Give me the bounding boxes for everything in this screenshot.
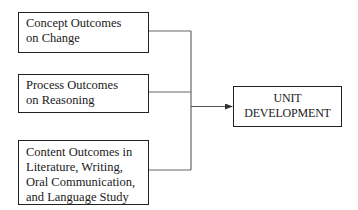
concept-outcomes-box: Concept Outcomes on Change <box>18 12 149 53</box>
box-text-line: and Language Study <box>26 190 142 205</box>
box-text-line: on Change <box>26 31 142 46</box>
unit-development-box: UNIT DEVELOPMENT <box>233 86 342 127</box>
box-text-line: UNIT <box>236 91 339 106</box>
box-text-line: Content Outcomes in <box>26 145 142 160</box>
box-text-line: on Reasoning <box>26 93 142 108</box>
process-outcomes-box: Process Outcomes on Reasoning <box>18 74 149 113</box>
box-text-line: Literature, Writing, <box>26 160 142 175</box>
content-outcomes-box: Content Outcomes in Literature, Writing,… <box>18 140 149 205</box>
box-text-line: DEVELOPMENT <box>236 106 339 121</box>
box-text-line: Concept Outcomes <box>26 16 142 31</box>
box-text-line: Process Outcomes <box>26 78 142 93</box>
box-text-line: Oral Communication, <box>26 175 142 190</box>
